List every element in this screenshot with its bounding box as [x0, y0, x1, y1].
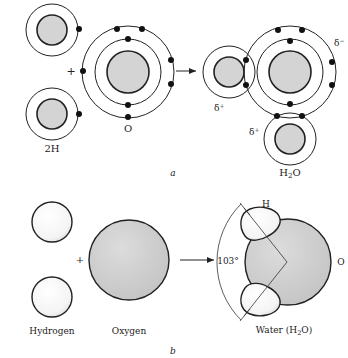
- electron: [168, 81, 174, 87]
- electron: [80, 68, 86, 74]
- hydrogen-sphere-2: [32, 277, 72, 317]
- hydrogen-label-b: Hydrogen: [29, 326, 75, 336]
- hydrogen-nucleus: [37, 15, 67, 45]
- hydrogen-nucleus: [214, 57, 244, 87]
- electron: [114, 26, 120, 32]
- o-label-b: O: [337, 257, 344, 267]
- electron: [287, 101, 293, 107]
- electron: [243, 57, 249, 63]
- hydrogen-atom-1: [26, 4, 82, 56]
- electron: [243, 82, 249, 88]
- panel-a: + O 2H: [26, 4, 344, 180]
- panel-b-caption: b: [170, 346, 176, 356]
- electron: [299, 113, 305, 119]
- electron: [329, 59, 335, 65]
- oxygen-nucleus: [269, 51, 311, 93]
- electron: [139, 26, 145, 32]
- electron: [299, 27, 305, 33]
- panel-a-caption: a: [170, 168, 175, 178]
- delta-plus-label-2: δ+: [249, 126, 259, 137]
- water-label-b: Water (H2O): [256, 325, 312, 337]
- electron: [125, 114, 131, 120]
- oxygen-sphere: [89, 220, 169, 300]
- electron: [329, 82, 335, 88]
- plus-sign: +: [66, 65, 75, 78]
- electron: [274, 113, 280, 119]
- delta-minus-label: δ−: [334, 37, 344, 48]
- electron: [275, 27, 281, 33]
- water-formation-diagram: + O 2H: [0, 0, 348, 358]
- h-label-b: H: [262, 199, 270, 209]
- delta-plus-label-1: δ+: [214, 102, 224, 113]
- electron: [76, 111, 82, 117]
- electron: [287, 38, 293, 44]
- electron: [76, 26, 82, 32]
- oxygen-label: O: [124, 123, 132, 134]
- electron: [125, 102, 131, 108]
- electron: [125, 36, 131, 42]
- plus-sign-b: +: [76, 254, 84, 265]
- water-formula-label: H2O: [279, 167, 300, 180]
- hydrogen-nucleus: [37, 99, 67, 129]
- angle-label: 103°: [217, 256, 239, 266]
- water-molecule-shells: [203, 26, 336, 165]
- hydrogen-sphere-1: [32, 202, 72, 242]
- oxygen-label-b: Oxygen: [112, 326, 147, 336]
- hydrogen-atom-2: [26, 88, 82, 140]
- panel-b: + Hydrogen Oxygen 103° H O Water (H2O) b: [29, 199, 344, 356]
- hydrogen-nucleus: [275, 124, 305, 154]
- oxygen-atom: [80, 26, 174, 120]
- oxygen-nucleus: [107, 51, 149, 93]
- hydrogen-label: 2H: [44, 143, 59, 154]
- electron: [168, 57, 174, 63]
